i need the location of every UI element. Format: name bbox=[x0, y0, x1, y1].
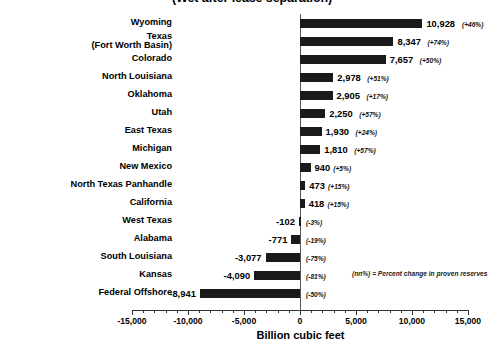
bar-chart: (Wet after lease separation) Wyoming10,9… bbox=[0, 0, 504, 348]
x-axis-tick bbox=[143, 310, 144, 313]
bar bbox=[300, 199, 305, 208]
bar bbox=[300, 73, 333, 82]
bar-percent-label: (+46%) bbox=[462, 16, 483, 34]
x-axis-tick-label: -15,000 bbox=[102, 316, 162, 326]
bar-percent-label: (-50%) bbox=[306, 286, 326, 304]
category-label: West Texas bbox=[2, 216, 172, 226]
x-axis-tick bbox=[266, 310, 267, 313]
bar-row: East Texas1,930(+24%) bbox=[132, 123, 468, 141]
bar-value-label: 7,657 bbox=[390, 51, 413, 68]
x-axis-tick bbox=[334, 310, 335, 313]
bar bbox=[300, 109, 325, 118]
bar bbox=[300, 37, 393, 46]
bar bbox=[300, 55, 386, 64]
x-axis-tick bbox=[233, 310, 234, 313]
category-label: South Louisiana bbox=[2, 252, 172, 262]
bar-percent-label: (+17%) bbox=[367, 88, 388, 106]
x-axis-tick-label: -10,000 bbox=[158, 316, 218, 326]
x-axis-tick bbox=[412, 310, 413, 315]
x-axis-tick bbox=[457, 310, 458, 313]
x-axis-title: Billion cubic feet bbox=[132, 329, 469, 341]
bar-percent-label: (+57%) bbox=[359, 106, 380, 124]
bar-value-label: -771 bbox=[269, 231, 288, 248]
x-axis-tick bbox=[222, 310, 223, 313]
category-label: North Louisiana bbox=[2, 72, 172, 82]
bar-value-label: 1,810 bbox=[324, 141, 347, 158]
bar bbox=[300, 163, 311, 172]
chart-title: (Wet after lease separation) bbox=[0, 0, 504, 5]
x-axis-tick-label: 0 bbox=[270, 316, 330, 326]
x-axis-tick bbox=[199, 310, 200, 313]
category-label: Oklahoma bbox=[2, 90, 172, 100]
x-axis-tick-label: 15,000 bbox=[438, 316, 498, 326]
bar-percent-label: (+15%) bbox=[328, 178, 349, 196]
bar-percent-label: (-19%) bbox=[306, 232, 326, 250]
x-axis-tick bbox=[345, 310, 346, 313]
bar bbox=[300, 127, 322, 136]
bar-row: North Louisiana2,978(+51%) bbox=[132, 69, 468, 87]
bar-value-label: 418 bbox=[309, 195, 325, 212]
bar-row: Utah2,250(+57%) bbox=[132, 105, 468, 123]
bar-row: North Texas Panhandle473(+15%) bbox=[132, 177, 468, 195]
plot-area: Wyoming10,928(+46%)Texas (Fort Worth Bas… bbox=[132, 14, 468, 310]
x-axis-tick bbox=[446, 310, 447, 313]
legend-note: (nn%) = Percent change in proven reserve… bbox=[352, 270, 487, 277]
bar-percent-label: (-81%) bbox=[306, 268, 326, 286]
category-label: Alabama bbox=[2, 234, 172, 244]
x-axis-tick bbox=[244, 310, 245, 315]
bar-row: Oklahoma2,905(+17%) bbox=[132, 87, 468, 105]
x-axis-tick bbox=[166, 310, 167, 313]
bar-row: New Mexico940(+5%) bbox=[132, 159, 468, 177]
bar-value-label: -3,077 bbox=[235, 249, 262, 266]
bar bbox=[300, 145, 320, 154]
bar bbox=[300, 91, 333, 100]
x-axis-tick bbox=[390, 310, 391, 313]
bar-value-label: 8,347 bbox=[397, 33, 420, 50]
bar bbox=[299, 217, 301, 226]
bar-percent-label: (+5%) bbox=[333, 160, 351, 178]
category-label: Kansas bbox=[2, 270, 172, 280]
x-axis-tick bbox=[188, 310, 189, 315]
x-axis-tick bbox=[367, 310, 368, 313]
x-axis-tick bbox=[311, 310, 312, 313]
bar-value-label: 2,250 bbox=[329, 105, 352, 122]
bar bbox=[266, 253, 300, 262]
x-axis-tick bbox=[289, 310, 290, 313]
bar-row: Federal Offshore-8,941(-50%) bbox=[132, 285, 468, 303]
bar-value-label: 2,905 bbox=[337, 87, 360, 104]
bar-value-label: 1,930 bbox=[326, 123, 349, 140]
x-axis-tick bbox=[434, 310, 435, 313]
bar-value-label: -8,941 bbox=[169, 285, 196, 302]
x-axis-tick-label: 10,000 bbox=[382, 316, 442, 326]
category-label: Colorado bbox=[2, 54, 172, 64]
x-axis-tick-label: -5,000 bbox=[214, 316, 274, 326]
bar-row: Wyoming10,928(+46%) bbox=[132, 15, 468, 33]
x-axis-tick-label: 5,000 bbox=[326, 316, 386, 326]
bar-value-label: 940 bbox=[315, 159, 331, 176]
x-axis-tick bbox=[378, 310, 379, 313]
bar-value-label: -102 bbox=[276, 213, 295, 230]
bar bbox=[300, 181, 305, 190]
x-axis-tick bbox=[132, 310, 133, 315]
bar bbox=[254, 271, 300, 280]
bar-percent-label: (+50%) bbox=[420, 52, 441, 70]
category-label: Michigan bbox=[2, 144, 172, 154]
bar-row: Alabama-771(-19%) bbox=[132, 231, 468, 249]
bar-percent-label: (-3%) bbox=[306, 214, 322, 232]
x-axis-tick bbox=[154, 310, 155, 313]
category-label: East Texas bbox=[2, 126, 172, 136]
category-label: Texas (Fort Worth Basin) bbox=[2, 32, 172, 52]
bar-percent-label: (+74%) bbox=[427, 34, 448, 52]
bar-value-label: 473 bbox=[309, 177, 325, 194]
category-label: North Texas Panhandle bbox=[2, 180, 172, 190]
x-axis-tick bbox=[401, 310, 402, 313]
bar-value-label: -4,090 bbox=[224, 267, 251, 284]
bar-row: West Texas-102(-3%) bbox=[132, 213, 468, 231]
category-label: New Mexico bbox=[2, 162, 172, 172]
x-axis-tick bbox=[300, 310, 301, 315]
bar-value-label: 2,978 bbox=[337, 69, 360, 86]
x-axis-tick bbox=[255, 310, 256, 313]
category-label: Federal Offshore bbox=[2, 288, 172, 298]
bar-row: Michigan1,810(+57%) bbox=[132, 141, 468, 159]
bar-percent-label: (+24%) bbox=[356, 124, 377, 142]
